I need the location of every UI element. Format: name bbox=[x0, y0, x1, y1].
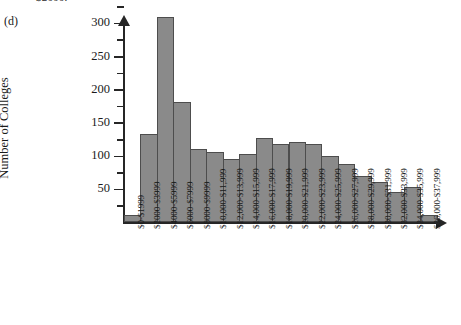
y-axis-tick-label-text: 250 bbox=[78, 50, 110, 63]
histogram-plot: 50100150200250300 $0-$1999$2000-$3999$40… bbox=[0, 0, 461, 325]
y-axis-tick-label-text: 200 bbox=[78, 83, 110, 96]
x-axis-tick-label: $24,000-$25,999 bbox=[333, 168, 343, 229]
y-axis-tick-label: 100 bbox=[78, 149, 110, 161]
y-axis-tick-label-text: 150 bbox=[78, 116, 110, 129]
x-axis-tick-label: $14,000-$15,999 bbox=[251, 168, 261, 229]
y-axis-major-tick bbox=[114, 156, 124, 158]
y-axis-minor-tick bbox=[117, 73, 124, 75]
y-axis-major-tick bbox=[114, 23, 124, 25]
y-axis-minor-tick bbox=[117, 205, 124, 207]
y-axis-tick-label: 250 bbox=[78, 50, 110, 62]
y-axis-minor-tick bbox=[117, 106, 124, 108]
y-axis-tick-label-text: 50 bbox=[78, 182, 110, 195]
y-axis-major-tick bbox=[114, 56, 124, 58]
x-axis-tick-label: $22,000-$23,999 bbox=[317, 168, 327, 229]
y-axis-major-tick bbox=[114, 89, 124, 91]
y-axis-tick-label: 200 bbox=[78, 83, 110, 95]
y-axis-minor-tick bbox=[117, 39, 124, 41]
x-axis-tick-label: $0-$1999 bbox=[136, 195, 146, 229]
x-axis-tick-label: $6000-$7999 bbox=[185, 182, 195, 229]
x-axis-tick-label: $10,000-$11,999 bbox=[218, 169, 228, 229]
y-axis-major-tick bbox=[114, 189, 124, 191]
x-axis-tick-label: $2000-$3999 bbox=[152, 182, 162, 229]
y-axis-minor-tick bbox=[117, 6, 124, 8]
x-axis-tick-label: $4000-$5999 bbox=[169, 182, 179, 229]
x-axis-tick-label: $18,000-$19,999 bbox=[284, 168, 294, 229]
y-axis-minor-tick bbox=[117, 139, 124, 141]
y-axis-minor-tick bbox=[117, 172, 124, 174]
y-axis-tick-label-text: 300 bbox=[78, 16, 110, 29]
x-axis-tick-label: $12,000-$13,999 bbox=[235, 168, 245, 229]
x-axis-tick-label: $16,000-$17,999 bbox=[267, 168, 277, 229]
y-axis-tick-label: 150 bbox=[78, 116, 110, 128]
y-axis-tick-label-text: 100 bbox=[78, 149, 110, 162]
y-axis-tick-label: 300 bbox=[78, 16, 110, 28]
x-axis-tick-label: $8000-$9999 bbox=[202, 182, 212, 229]
x-axis-tick-label: $30,000-$31,999 bbox=[383, 168, 393, 229]
x-axis-tick-label: $20,000-$21,999 bbox=[300, 168, 310, 229]
x-axis-tick-label: $34,000-$35,999 bbox=[415, 168, 425, 229]
y-axis-major-tick bbox=[114, 122, 124, 124]
x-axis-tick-label: $26,000-$27,999 bbox=[350, 168, 360, 229]
x-axis-tick-label: $28,000-$29,999 bbox=[366, 168, 376, 229]
x-axis-tick-label: $32,000-$33,999 bbox=[399, 168, 409, 229]
y-axis-tick-label: 50 bbox=[78, 182, 110, 194]
x-axis-tick-label: $36,000-$37,999 bbox=[432, 168, 442, 229]
